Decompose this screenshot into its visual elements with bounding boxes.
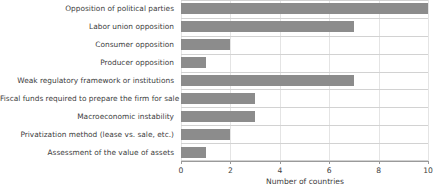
bar [181, 75, 354, 86]
x-tick-label: 4 [268, 166, 292, 175]
gridline-horizontal [181, 107, 428, 108]
gridline-horizontal [181, 18, 428, 19]
category-label: Privatization method (lease vs. sale, et… [0, 130, 174, 139]
gridline-vertical [379, 0, 380, 161]
x-axis-title: Number of countries [181, 177, 429, 186]
bar [181, 147, 206, 158]
category-label: Consumer opposition [0, 40, 174, 49]
x-tick-label: 8 [367, 166, 391, 175]
x-tick-mark [428, 161, 429, 164]
category-axis-labels: Opposition of political partiesLabor uni… [0, 0, 178, 161]
category-label: Assessment of the value of assets [0, 148, 174, 157]
category-label: Fiscal funds required to prepare the fir… [0, 94, 174, 103]
x-tick-mark [329, 161, 330, 164]
gridline-horizontal [181, 89, 428, 90]
gridline-horizontal [181, 143, 428, 144]
gridline-horizontal [181, 36, 428, 37]
gridline-horizontal [181, 54, 428, 55]
x-tick-label: 0 [169, 166, 193, 175]
x-tick-mark [181, 161, 182, 164]
plot-area [181, 0, 428, 161]
bar [181, 129, 230, 140]
horizontal-bar-chart: Opposition of political partiesLabor uni… [0, 0, 436, 189]
category-label: Labor union opposition [0, 22, 174, 31]
gridline-horizontal [181, 72, 428, 73]
bar [181, 21, 354, 32]
category-label: Opposition of political parties [0, 4, 174, 13]
x-tick-label: 6 [317, 166, 341, 175]
x-tick-label: 10 [416, 166, 436, 175]
gridline-vertical [428, 0, 429, 161]
x-tick-mark [280, 161, 281, 164]
category-label: Weak regulatory framework or institution… [0, 76, 174, 85]
bar [181, 93, 255, 104]
bar [181, 39, 230, 50]
bar [181, 111, 255, 122]
bar [181, 3, 428, 14]
x-tick-mark [230, 161, 231, 164]
bar [181, 57, 206, 68]
gridline-horizontal [181, 125, 428, 126]
category-label: Producer opposition [0, 58, 174, 67]
x-axis-line [181, 161, 429, 162]
gridline-horizontal [181, 0, 428, 1]
x-tick-mark [379, 161, 380, 164]
category-label: Macroeconomic instability [0, 112, 174, 121]
x-tick-label: 2 [218, 166, 242, 175]
